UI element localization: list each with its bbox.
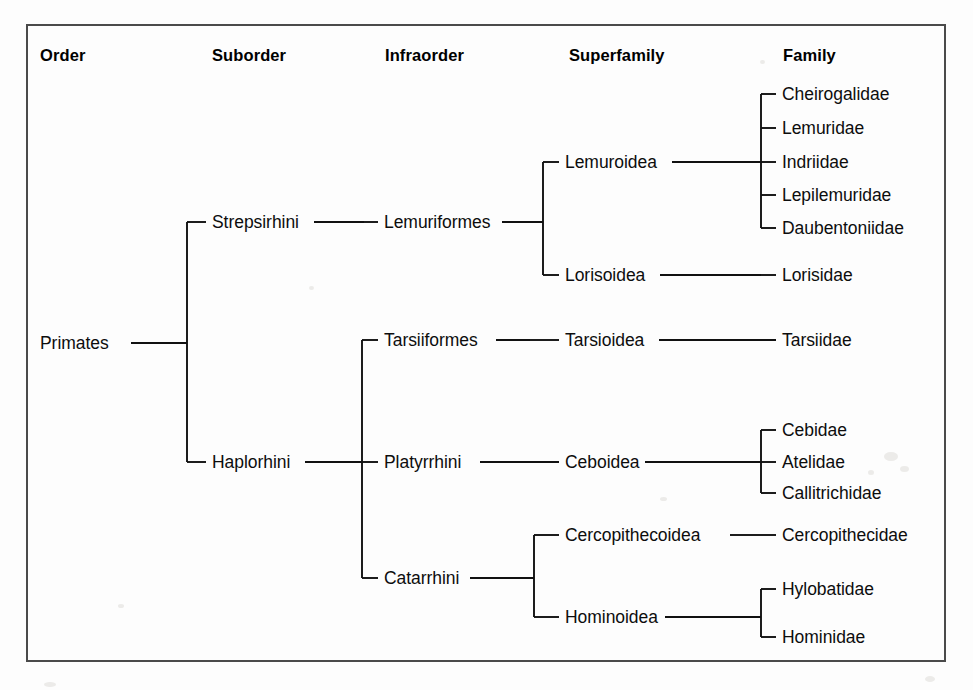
taxon-label-cheirogalidae: Cheirogalidae: [782, 84, 889, 105]
taxon-label-callitrichidae: Callitrichidae: [782, 483, 881, 504]
taxon-label-hominidae: Hominidae: [782, 627, 865, 648]
column-header-infraorder: Infraorder: [385, 46, 464, 65]
scan-speck: [925, 676, 935, 682]
taxon-label-cercopithecoidea: Cercopithecoidea: [565, 525, 700, 546]
scan-speck: [868, 470, 874, 475]
taxon-label-tarsiiformes: Tarsiiformes: [384, 330, 478, 351]
column-header-family: Family: [783, 46, 836, 65]
taxon-label-lemuriformes: Lemuriformes: [384, 212, 490, 233]
taxon-label-lepilemuridae: Lepilemuridae: [782, 185, 891, 206]
scan-speck: [309, 286, 314, 290]
taxon-label-lemuroidea: Lemuroidea: [565, 152, 657, 173]
taxon-label-indriidae: Indriidae: [782, 152, 849, 173]
column-header-suborder: Suborder: [212, 46, 286, 65]
column-header-order: Order: [40, 46, 85, 65]
scan-speck: [44, 682, 56, 687]
scan-speck: [118, 604, 124, 608]
taxon-label-tarsiidae: Tarsiidae: [782, 330, 852, 351]
taxon-label-hominoidea: Hominoidea: [565, 607, 658, 628]
taxon-label-lemuridae: Lemuridae: [782, 118, 864, 139]
taxon-label-cebidae: Cebidae: [782, 420, 847, 441]
taxon-label-daubentoniidae: Daubentoniidae: [782, 218, 904, 239]
taxon-label-platyrrhini: Platyrrhini: [384, 452, 461, 473]
taxon-label-ceboidea: Ceboidea: [565, 452, 640, 473]
scan-speck: [900, 466, 909, 472]
scan-speck: [660, 497, 667, 501]
scan-speck: [760, 60, 765, 64]
taxon-label-primates: Primates: [40, 333, 109, 354]
taxon-label-cercopithecidae: Cercopithecidae: [782, 525, 908, 546]
taxonomy-figure: OrderSuborderInfraorderSuperfamilyFamily…: [0, 0, 973, 690]
column-header-superfamily: Superfamily: [569, 46, 665, 65]
taxon-label-tarsioidea: Tarsioidea: [565, 330, 644, 351]
taxon-label-haplorhini: Haplorhini: [212, 452, 290, 473]
taxon-label-lorisidae: Lorisidae: [782, 265, 853, 286]
taxon-label-catarrhini: Catarrhini: [384, 568, 459, 589]
taxon-label-strepsirhini: Strepsirhini: [212, 212, 299, 233]
taxon-label-lorisoidea: Lorisoidea: [565, 265, 645, 286]
scan-speck: [884, 452, 898, 461]
taxon-label-hylobatidae: Hylobatidae: [782, 579, 874, 600]
taxon-label-atelidae: Atelidae: [782, 452, 845, 473]
